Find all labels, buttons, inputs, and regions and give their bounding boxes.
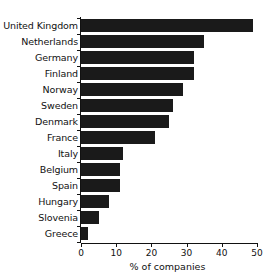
category-label-row: Spain <box>0 178 78 194</box>
bar <box>81 147 123 160</box>
x-axis-tick <box>151 243 152 247</box>
bar-row <box>81 82 277 98</box>
bar-row <box>81 50 277 66</box>
bar <box>81 131 155 144</box>
category-label-row: Netherlands <box>0 34 78 50</box>
category-label-row: Hungary <box>0 194 78 210</box>
bar <box>81 35 204 48</box>
bar <box>81 115 169 128</box>
x-axis-title-text: % of companies <box>130 261 206 272</box>
x-axis-tick-label: 10 <box>104 248 128 259</box>
y-axis-tick <box>77 210 81 211</box>
category-label-row: Sweden <box>0 98 78 114</box>
bar-row <box>81 114 277 130</box>
bar-row <box>81 178 277 194</box>
bar-row <box>81 162 277 178</box>
category-label: Netherlands <box>21 34 78 50</box>
x-axis-tick <box>257 243 258 247</box>
bar <box>81 163 120 176</box>
x-axis-tick <box>187 243 188 247</box>
bar <box>81 67 194 80</box>
category-label: Italy <box>58 146 78 162</box>
category-label-row: United Kingdom <box>0 18 78 34</box>
bar <box>81 179 120 192</box>
bars-container <box>81 18 277 242</box>
bar <box>81 51 194 64</box>
x-axis-tick-label: 30 <box>175 248 199 259</box>
y-axis-tick <box>77 50 81 51</box>
bar <box>81 211 99 224</box>
category-label-row: Italy <box>0 146 78 162</box>
category-label-row: Germany <box>0 50 78 66</box>
bar-row <box>81 210 277 226</box>
y-axis-tick <box>77 98 81 99</box>
category-label-row: Belgium <box>0 162 78 178</box>
y-axis-tick <box>77 18 81 19</box>
category-label-row: Greece <box>0 226 78 242</box>
x-axis-tick <box>116 243 117 247</box>
category-label: Germany <box>35 50 78 66</box>
bar-row <box>81 226 277 242</box>
bar-row <box>81 18 277 34</box>
y-axis-tick <box>77 130 81 131</box>
category-label: United Kingdom <box>3 18 78 34</box>
y-axis-tick <box>77 114 81 115</box>
category-label-row: Norway <box>0 82 78 98</box>
x-axis-tick <box>81 243 82 247</box>
y-axis-tick <box>77 162 81 163</box>
category-label-row: Denmark <box>0 114 78 130</box>
category-label: France <box>47 130 78 146</box>
y-axis-tick <box>77 146 81 147</box>
category-label: Slovenia <box>38 210 78 226</box>
x-axis-tick-label: 20 <box>139 248 163 259</box>
bar-row <box>81 194 277 210</box>
x-axis-title: % of companies <box>0 261 277 272</box>
category-label-row: Slovenia <box>0 210 78 226</box>
category-label-row: Finland <box>0 66 78 82</box>
x-axis-tick-label: 0 <box>69 248 93 259</box>
category-axis-labels: United KingdomNetherlandsGermanyFinlandN… <box>0 18 78 242</box>
y-axis-tick <box>77 34 81 35</box>
category-label: Belgium <box>40 162 78 178</box>
bar <box>81 99 173 112</box>
bar <box>81 19 253 32</box>
category-label: Norway <box>43 82 78 98</box>
bar-row <box>81 66 277 82</box>
category-label: Denmark <box>35 114 78 130</box>
y-axis-tick <box>77 194 81 195</box>
x-axis-tick-label: 40 <box>210 248 234 259</box>
x-axis-tick <box>222 243 223 247</box>
bar-chart: United KingdomNetherlandsGermanyFinlandN… <box>0 0 277 280</box>
y-axis-tick <box>77 82 81 83</box>
bar <box>81 83 183 96</box>
x-axis-line <box>81 243 258 244</box>
bar-row <box>81 130 277 146</box>
y-axis-tick <box>77 66 81 67</box>
category-label: Hungary <box>38 194 78 210</box>
plot-area: United KingdomNetherlandsGermanyFinlandN… <box>0 0 277 280</box>
category-label: Sweden <box>41 98 78 114</box>
category-label: Greece <box>45 226 78 242</box>
category-label-row: France <box>0 130 78 146</box>
y-axis-tick <box>77 178 81 179</box>
category-label: Spain <box>52 178 78 194</box>
bar-row <box>81 34 277 50</box>
y-axis-tick <box>77 226 81 227</box>
x-axis-tick-label: 50 <box>245 248 269 259</box>
bar-row <box>81 98 277 114</box>
bar <box>81 227 88 240</box>
bar <box>81 195 109 208</box>
category-label: Finland <box>45 66 78 82</box>
bar-row <box>81 146 277 162</box>
